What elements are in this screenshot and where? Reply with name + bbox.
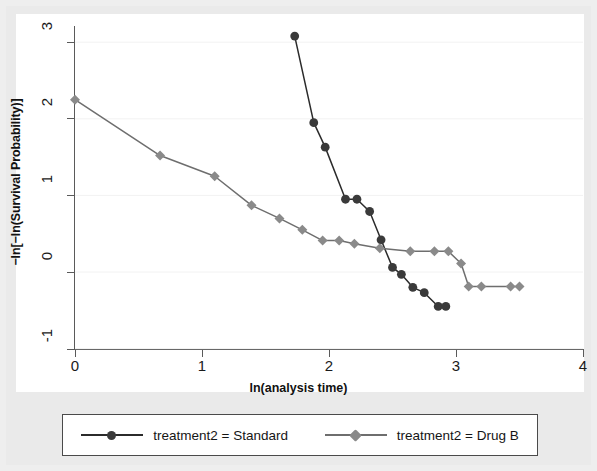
y-tick-label-3: 3 [39, 22, 54, 62]
data-point [297, 225, 307, 235]
data-point [434, 302, 443, 311]
x-tick-1 [202, 350, 203, 357]
data-point [365, 207, 374, 216]
data-point [274, 213, 284, 223]
y-tick-label-2: 2 [39, 98, 54, 138]
data-point [70, 95, 80, 105]
x-tick-label-4: 4 [579, 358, 587, 373]
data-point [405, 246, 415, 256]
x-tick-label-0: 0 [71, 358, 79, 373]
legend-entry-drug-b[interactable]: treatment2 = Drug B [325, 428, 519, 443]
y-tick-label-0: 0 [39, 252, 54, 292]
data-point [429, 246, 439, 256]
data-point [290, 32, 299, 41]
legend-label-drug-b: treatment2 = Drug B [397, 428, 519, 443]
data-point [321, 143, 330, 152]
x-tick-3 [456, 350, 457, 357]
data-point [341, 195, 350, 204]
data-point [397, 270, 406, 279]
data-point [420, 288, 429, 297]
y-tick-2 [67, 118, 74, 119]
data-point [334, 236, 344, 246]
data-point [318, 236, 328, 246]
y-tick-label-1: 1 [39, 175, 54, 215]
series-drug-b [70, 95, 525, 292]
data-point [377, 235, 386, 244]
series-line [295, 36, 446, 306]
data-point [408, 283, 417, 292]
series-line [75, 100, 520, 287]
data-point [476, 282, 486, 292]
legend-marker-circle-icon [107, 431, 116, 440]
legend-key-standard [81, 428, 143, 442]
data-point [155, 151, 165, 161]
data-point [349, 239, 359, 249]
legend: treatment2 = Standard treatment2 = Drug … [62, 414, 538, 456]
x-tick-label-2: 2 [325, 358, 333, 373]
data-point [464, 282, 474, 292]
x-tick-label-3: 3 [452, 358, 460, 373]
legend-entry-standard[interactable]: treatment2 = Standard [81, 428, 288, 443]
data-point [441, 302, 450, 311]
y-tick-3 [67, 42, 74, 43]
x-tick-label-1: 1 [198, 358, 206, 373]
x-tick-4 [583, 350, 584, 357]
y-tick-label-minus1: -1 [39, 329, 54, 369]
y-tick-1 [67, 195, 74, 196]
y-axis-title: −ln[−ln(Survival Probability)] [9, 22, 23, 342]
data-point [388, 263, 397, 272]
x-tick-0 [75, 350, 76, 357]
survival-plot-figure: 3 2 1 0 -1 0 1 2 3 4 −ln[−ln(Survival Pr… [0, 0, 597, 471]
data-point [309, 118, 318, 127]
data-point [515, 282, 525, 292]
series-standard [290, 32, 450, 311]
legend-label-standard: treatment2 = Standard [153, 428, 288, 443]
data-point [353, 195, 362, 204]
x-tick-2 [329, 350, 330, 357]
plot-canvas [0, 0, 597, 471]
y-tick-0 [67, 272, 74, 273]
x-axis-title: ln(analysis time) [0, 381, 597, 395]
data-point [506, 282, 516, 292]
legend-marker-diamond-icon [349, 429, 362, 442]
y-tick-minus1 [67, 349, 74, 350]
legend-key-drug-b [325, 428, 387, 442]
